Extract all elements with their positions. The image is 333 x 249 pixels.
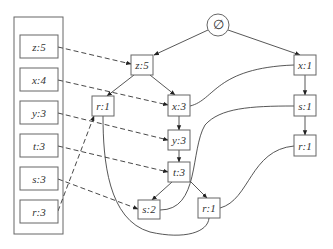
node-x3: x:3 [168,95,190,116]
svg-text:t:3: t:3 [173,166,186,178]
header-item-y: y:3 [20,101,58,124]
svg-text:x:3: x:3 [171,100,187,112]
edge-root-x1 [228,30,300,55]
link-s2-s1 [160,106,294,210]
svg-text:z:5: z:5 [134,59,149,71]
svg-text:r:1: r:1 [202,202,215,214]
edge-z5-r1a [107,75,134,96]
svg-text:x:1: x:1 [297,59,312,71]
svg-text:s:1: s:1 [298,100,311,112]
svg-text:s:2: s:2 [142,203,156,215]
header-item-r: r:3 [20,200,58,223]
header-link-z [58,47,131,64]
node-r1-lower: r:1 [198,198,220,218]
svg-text:x:4: x:4 [31,74,47,86]
svg-text:r:1: r:1 [298,140,311,152]
svg-text:y:3: y:3 [31,107,47,119]
svg-text:s:3: s:3 [32,173,46,185]
svg-text:z:5: z:5 [31,41,46,53]
header-link-t [58,146,168,172]
link-r1b-r1c [220,146,294,208]
edge-t3-r1b [189,180,207,198]
header-item-z: z:5 [20,35,58,58]
svg-text:r:1: r:1 [96,100,109,112]
edge-t3-s2 [152,182,172,200]
header-link-s [58,179,138,209]
node-r1-left: r:1 [92,96,114,116]
header-item-t: t:3 [20,134,58,157]
link-x3-x1 [190,65,294,106]
node-s2: s:2 [138,200,160,219]
node-z5: z:5 [131,55,153,75]
fp-tree-diagram: ∅ z:5 x:4 y:3 t:3 s:3 r:3 z:5 r:1 x:3 y:… [0,0,333,249]
svg-text:y:3: y:3 [171,134,187,146]
header-item-x: x:4 [20,68,58,91]
svg-text:r:3: r:3 [32,206,46,218]
header-item-s: s:3 [20,167,58,190]
svg-text:t:3: t:3 [33,140,46,152]
node-t3: t:3 [168,162,190,182]
root-label: ∅ [213,17,224,32]
edge-z5-x3 [150,75,175,95]
edge-root-z5 [154,30,208,55]
node-s1: s:1 [294,95,316,116]
node-r1-right: r:1 [294,135,316,156]
header-link-y [58,113,168,140]
node-x1: x:1 [294,55,316,75]
node-y3: y:3 [168,130,190,150]
